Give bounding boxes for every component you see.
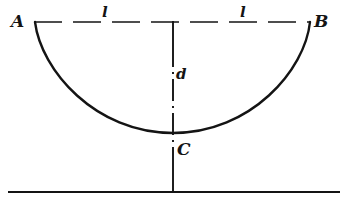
cable-sag-diagram: A B l l d C: [0, 0, 348, 208]
label-point-b: B: [314, 13, 328, 30]
label-point-c: C: [177, 141, 191, 158]
label-point-a: A: [11, 13, 24, 30]
label-half-span-right: l: [240, 5, 246, 20]
label-sag-d: d: [176, 67, 187, 82]
label-half-span-left: l: [102, 5, 108, 20]
diagram-canvas: [0, 0, 348, 208]
